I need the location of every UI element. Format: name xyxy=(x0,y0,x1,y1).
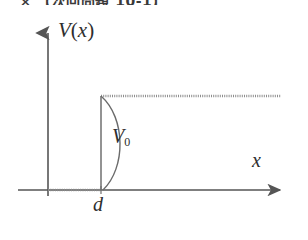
y-axis-label-paren-close: ) xyxy=(87,18,94,42)
y-axis-label-v: V xyxy=(58,18,71,42)
potential-step-figure xyxy=(0,0,308,240)
x-axis-label: x xyxy=(252,150,261,170)
header-caption: ×【次回問題 10-1】 xyxy=(20,0,167,5)
y-axis-label: V(x) xyxy=(58,20,94,41)
barrier-height-symbol: V xyxy=(112,125,124,147)
barrier-height-label: V0 xyxy=(112,126,130,146)
cross-mark-icon: × xyxy=(20,0,31,5)
d-position-label: d xyxy=(93,194,103,214)
header-text: 【次回問題 10-1】 xyxy=(37,0,166,5)
barrier-height-subscript: 0 xyxy=(124,135,130,149)
y-axis-label-paren-open: ( xyxy=(71,18,78,42)
y-axis-label-arg: x xyxy=(78,18,87,42)
